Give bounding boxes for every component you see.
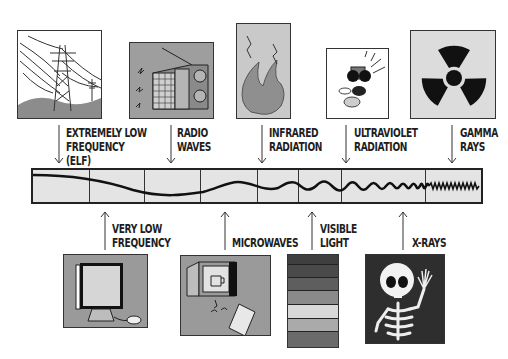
band-4 — [288, 291, 338, 305]
label-visible: VISIBLE LIGHT — [320, 222, 357, 250]
label-microwaves: MICROWAVES — [232, 236, 298, 250]
spectrum-bar — [31, 168, 483, 204]
power-line-tower-icon — [18, 31, 102, 119]
microwaves-illustration — [180, 255, 271, 336]
arrow-down-elf — [54, 125, 64, 165]
arrow-down-infrared — [257, 125, 267, 165]
band-2 — [288, 265, 338, 278]
xrays-illustration — [365, 254, 445, 344]
label-elf: EXTREMELY LOW FREQUENCY (ELF) — [66, 126, 147, 168]
arrow-down-ultraviolet — [341, 125, 351, 165]
vlf-illustration — [63, 254, 148, 328]
band-3 — [288, 278, 338, 291]
arrow-down-radio — [166, 125, 176, 165]
label-gamma: GAMMA RAYS — [460, 126, 498, 154]
band-1 — [288, 255, 338, 265]
visible-light-illustration — [287, 254, 339, 348]
band-7 — [288, 332, 338, 347]
microwave-oven-phone-icon — [181, 256, 271, 336]
elf-illustration — [17, 30, 102, 119]
gamma-illustration — [410, 30, 496, 119]
arrow-up-microwaves — [220, 210, 230, 250]
band-5 — [288, 305, 338, 319]
ultraviolet-illustration — [326, 48, 389, 119]
label-vlf: VERY LOW FREQUENCY — [112, 222, 171, 250]
sunglasses-bug-icon — [327, 49, 389, 119]
skeleton-icon — [366, 255, 445, 344]
radio-icon — [130, 43, 214, 119]
label-xrays: X-RAYS — [412, 236, 446, 250]
arrow-up-xrays — [398, 210, 408, 250]
computer-monitor-icon — [64, 255, 148, 328]
flame-icon — [237, 24, 291, 119]
label-ultraviolet: ULTRAVIOLET RADIATION — [354, 126, 418, 154]
arrow-down-gamma — [447, 125, 457, 165]
color-bands-icon — [288, 255, 338, 347]
band-6 — [288, 319, 338, 332]
label-infrared: INFRARED RADIATION — [269, 126, 322, 154]
arrow-up-visible — [307, 210, 317, 250]
arrow-up-vlf — [100, 210, 110, 250]
wave-line — [33, 170, 481, 202]
radiation-symbol-icon — [411, 31, 496, 119]
radio-illustration — [129, 42, 214, 119]
label-radio: RADIO WAVES — [177, 126, 211, 154]
infrared-illustration — [236, 23, 291, 119]
